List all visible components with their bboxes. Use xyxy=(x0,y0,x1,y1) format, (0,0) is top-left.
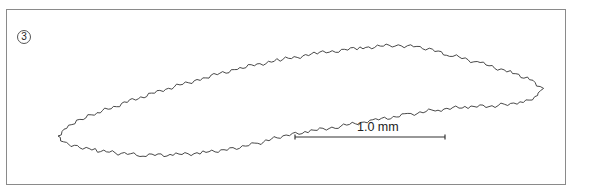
scale-bar-label: 1.0 mm xyxy=(357,120,399,134)
scale-bar xyxy=(295,135,445,140)
specimen-outline xyxy=(58,44,544,157)
specimen-outline-drawing xyxy=(0,0,589,195)
